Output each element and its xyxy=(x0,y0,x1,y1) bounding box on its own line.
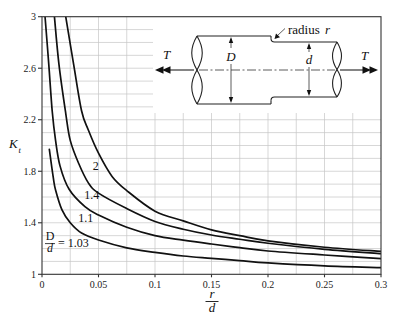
fillet-label: radius xyxy=(288,22,320,37)
y-tick-label: 2.2 xyxy=(24,114,37,125)
y-tick-label: 2.6 xyxy=(24,63,37,74)
x-tick-label: 0.05 xyxy=(90,279,108,290)
y-tick-label: 3 xyxy=(31,11,36,22)
x-tick-label: 0 xyxy=(40,279,45,290)
stress-concentration-chart: 11.41.82.22.6300.050.10.150.20.250.3 21.… xyxy=(0,0,397,324)
ratio-label-denominator: d xyxy=(47,241,54,255)
diagram-background xyxy=(153,17,381,113)
curve-label: 1.1 xyxy=(78,211,93,225)
y-axis-label-main: K xyxy=(8,136,19,151)
curve-label: 2 xyxy=(93,159,99,173)
x-tick-label: 0.3 xyxy=(375,279,388,290)
y-tick-label: 1.8 xyxy=(24,166,37,177)
y-tick-label: 1 xyxy=(31,269,36,280)
small-diameter-label: d xyxy=(306,52,313,67)
ratio-label-value: = 1.03 xyxy=(58,236,89,250)
y-tick-label: 1.4 xyxy=(24,217,37,228)
curve-label: 1.4 xyxy=(84,188,99,202)
x-tick-label: 0.2 xyxy=(262,279,275,290)
large-diameter-label: D xyxy=(225,49,236,64)
left-load-label: T xyxy=(163,47,171,62)
right-load-label: T xyxy=(361,48,369,63)
x-tick-label: 0.25 xyxy=(316,279,334,290)
x-tick-label: 0.1 xyxy=(149,279,162,290)
x-axis-label-denominator: d xyxy=(209,300,216,315)
